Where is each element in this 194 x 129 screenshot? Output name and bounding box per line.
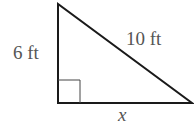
horizontal-leg-label: x xyxy=(117,104,127,125)
hypotenuse-label: 10 ft xyxy=(126,28,162,49)
vertical-leg-label: 6 ft xyxy=(13,42,40,63)
triangle xyxy=(58,4,192,103)
right-triangle-diagram: 6 ft 10 ft x xyxy=(0,0,194,129)
right-angle-marker xyxy=(58,80,80,103)
